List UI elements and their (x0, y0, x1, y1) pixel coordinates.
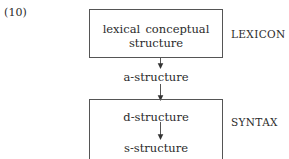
a-structure-label: a-structure (89, 70, 223, 84)
lexicon-side-label: LEXICON (231, 28, 286, 40)
arrow-d-structure-to-s-structure (155, 122, 167, 140)
arrow-lcs-to-a-structure (155, 57, 167, 69)
lexical-conceptual-structure-label: lexical conceptual structure (90, 22, 222, 50)
lexicon-module-box: lexical conceptual structure (89, 9, 223, 58)
s-structure-label: s-structure (90, 141, 222, 155)
syntax-side-label: SYNTAX (231, 116, 278, 128)
derivation-architecture-figure: (10) lexical conceptual structure LEXICO… (0, 0, 289, 159)
example-number: (10) (4, 6, 27, 19)
